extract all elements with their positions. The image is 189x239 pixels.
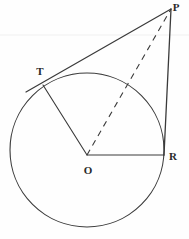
vertex-label-p: P [173, 2, 180, 13]
vertex-label-o: O [84, 165, 93, 176]
figure-background [0, 0, 189, 239]
vertex-label-t: T [36, 66, 43, 77]
geometry-figure: P T O R [0, 0, 189, 239]
geometry-canvas [0, 0, 189, 239]
vertex-label-r: R [169, 151, 177, 162]
